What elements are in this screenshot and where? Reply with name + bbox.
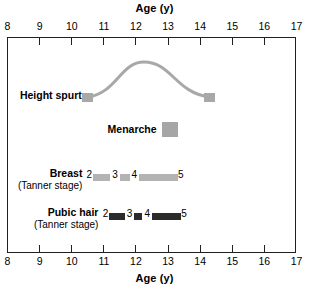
height-spurt-start-marker (82, 93, 93, 102)
x-tick-label-13-bottom: 13 (162, 255, 174, 267)
pubic-hair-stage-number-3: 3 (127, 208, 133, 219)
breast-stage-number-4: 4 (132, 169, 138, 180)
row-sublabel-pubic-hair: (Tanner stage) (0, 219, 98, 231)
row-label-main-breast: Breast (50, 167, 83, 179)
breast-stage-number-5: 5 (178, 169, 184, 180)
breast-bar-segment-3 (139, 174, 178, 181)
breast-bar-segment-1 (93, 174, 111, 181)
pubic-hair-bar-segment-1 (109, 213, 125, 220)
x-tick-label-10-bottom: 10 (66, 255, 78, 267)
row-label-height-spurt: Height spurt (0, 90, 82, 102)
row-label-main-menarche: Menarche (108, 123, 157, 135)
row-label-main-pubic-hair: Pubic hair (48, 206, 99, 218)
x-tick-label-12-bottom: 12 (130, 255, 142, 267)
bottom-tick-labels: 891011121314151617 (0, 255, 309, 268)
row-sublabel-breast: (Tanner stage) (0, 180, 82, 192)
row-label-breast: Breast(Tanner stage) (0, 168, 82, 191)
x-tick-label-15-bottom: 15 (226, 255, 238, 267)
x-tick-label-11-bottom: 11 (98, 255, 109, 267)
row-label-pubic-hair: Pubic hair(Tanner stage) (0, 207, 98, 230)
row-label-main-height-spurt: Height spurt (20, 89, 82, 101)
x-tick-label-17-bottom: 17 (291, 255, 303, 267)
pubic-hair-stage-number-4: 4 (144, 208, 150, 219)
height-spurt-end-marker (204, 93, 215, 102)
bottom-axis-title: Age (y) (0, 272, 309, 284)
breast-bar-segment-2 (120, 174, 130, 181)
height-spurt-curve (0, 0, 309, 290)
x-tick-label-16-bottom: 16 (259, 255, 271, 267)
pubic-hair-stage-number-2: 2 (103, 208, 109, 219)
puberty-milestones-chart: Age (y) 891011121314151617 Height spurtM… (0, 0, 309, 290)
x-tick-label-14-bottom: 14 (194, 255, 206, 267)
menarche-marker (162, 122, 178, 137)
breast-stage-number-3: 3 (112, 169, 118, 180)
row-label-menarche: Menarche (0, 124, 157, 136)
pubic-hair-bar-segment-3 (152, 213, 181, 220)
breast-stage-number-2: 2 (87, 169, 93, 180)
pubic-hair-stage-number-5: 5 (181, 208, 187, 219)
x-tick-label-8-bottom: 8 (5, 255, 11, 267)
pubic-hair-bar-segment-2 (134, 213, 142, 220)
x-tick-label-9-bottom: 9 (37, 255, 43, 267)
height-spurt-path (88, 62, 210, 97)
